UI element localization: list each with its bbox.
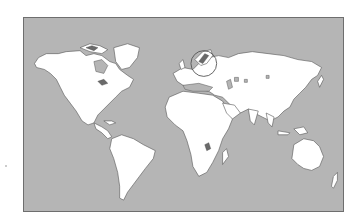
greenland	[114, 44, 140, 70]
world-map-svg	[24, 18, 343, 211]
new-zealand	[331, 172, 337, 188]
world-map	[23, 17, 344, 212]
stray-mark	[5, 165, 7, 167]
south-america	[110, 135, 156, 200]
australia	[292, 139, 324, 171]
